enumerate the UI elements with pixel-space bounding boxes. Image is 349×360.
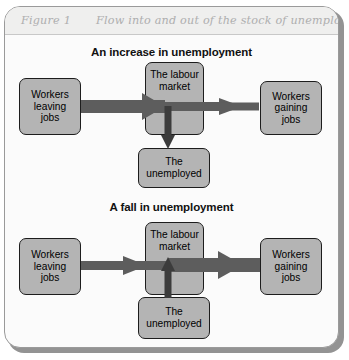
figure-number: Figure 1: [5, 14, 80, 27]
arrow-up-from-unemployed: [161, 257, 175, 298]
flow-arrow-vertical-fall: [5, 36, 338, 347]
figure-canvas: An increase in unemployment: [5, 36, 338, 347]
figure-title: Flow into and out of the stock of unempl…: [80, 14, 338, 27]
figure-title-bar: Figure 1 Flow into and out of the stock …: [5, 7, 338, 35]
figure-container: Figure 1 Flow into and out of the stock …: [0, 0, 349, 360]
